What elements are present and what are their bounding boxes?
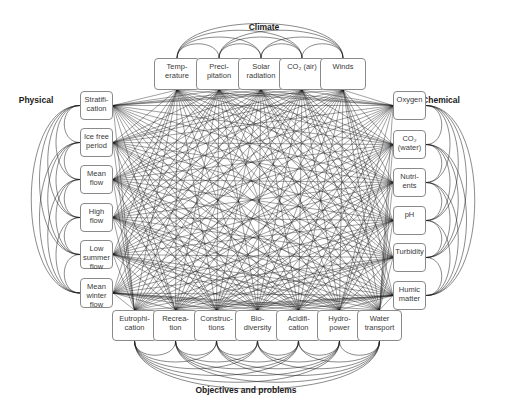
group-label-physical: Physical xyxy=(19,95,54,105)
node-oxygen: Oxygen xyxy=(393,91,426,120)
node-hydropower: Hydro- power xyxy=(317,310,362,341)
node-temperature: Temp- erature xyxy=(154,58,200,90)
group-label-climate: Climate xyxy=(249,22,280,32)
node-co2-air: CO₂ (air) xyxy=(279,58,325,90)
node-mean-flow: Mean flow xyxy=(80,165,113,194)
node-solar-radiation: Solar radiation xyxy=(238,58,284,90)
node-mean-winter-flow: Mean winter flow xyxy=(80,278,113,308)
node-stratification: Stratifi- cation xyxy=(80,91,113,120)
group-label-objectives: Objectives and problems xyxy=(195,385,296,395)
node-turbidity: Turbidity xyxy=(393,243,426,272)
group-label-chemical: Chemical xyxy=(422,95,460,105)
node-eutrophication: Eutrophi- cation xyxy=(112,310,157,341)
node-ph: pH xyxy=(393,206,426,235)
node-acidification: Acidifi- cation xyxy=(276,310,321,341)
network-diagram: ClimatePhysicalChemicalObjectives and pr… xyxy=(0,0,505,410)
node-low-summer-flow: Low summer flow xyxy=(80,240,113,269)
node-co2-water: CO₂ (water) xyxy=(393,130,426,159)
node-humic-matter: Humic matter xyxy=(393,281,426,310)
node-ice-free-period: Ice free period xyxy=(80,128,113,157)
node-precipitation: Preci- pitation xyxy=(196,58,242,90)
node-water-transport: Water transport xyxy=(357,310,402,341)
node-winds: Winds xyxy=(320,58,366,90)
node-high-flow: High flow xyxy=(80,203,113,232)
node-constructions: Construc- tions xyxy=(194,310,239,341)
node-biodiversity: Bio- diversity xyxy=(235,310,280,341)
node-recreation: Recrea- tion xyxy=(153,310,198,341)
node-nutrients: Nutri- ents xyxy=(393,168,426,197)
